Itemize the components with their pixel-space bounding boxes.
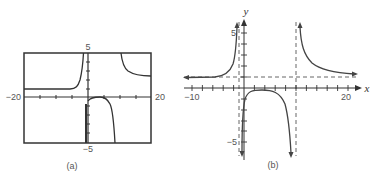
panel-a: 5 −5 −20 20 (a) bbox=[6, 42, 165, 171]
panel-b: y x −10 20 5 −5 (b) bbox=[183, 5, 370, 170]
x-tick-label-neg10: −10 bbox=[184, 92, 199, 102]
y-axis-label: y bbox=[243, 5, 249, 17]
arrow-up-right-icon bbox=[298, 22, 303, 28]
y-min-label: −5 bbox=[83, 144, 93, 154]
x-axis-label: x bbox=[364, 82, 370, 94]
x-tick-label-20: 20 bbox=[341, 92, 351, 102]
caption-a: (a) bbox=[67, 161, 78, 171]
branch-arrowheads bbox=[183, 22, 358, 158]
arrow-down-middle-right-icon bbox=[289, 152, 294, 158]
figure: 5 −5 −20 20 (a) bbox=[0, 0, 379, 182]
caption-b: (b) bbox=[268, 160, 279, 170]
x-axis-arrow-icon bbox=[355, 85, 362, 91]
x-max-label: 20 bbox=[155, 92, 165, 102]
y-tick-label-5: 5 bbox=[231, 28, 236, 38]
arrow-right-icon bbox=[352, 72, 358, 77]
middle-branch bbox=[242, 90, 291, 153]
y-axis-arrow-icon bbox=[241, 19, 247, 26]
arrow-left-icon bbox=[183, 75, 189, 80]
asymptotes bbox=[184, 22, 356, 156]
right-branch bbox=[300, 27, 354, 74]
y-tick-label-neg5: −5 bbox=[227, 137, 237, 147]
y-max-label: 5 bbox=[85, 42, 90, 52]
function-graph-b bbox=[186, 27, 354, 153]
left-branch bbox=[186, 27, 237, 78]
x-min-label: −20 bbox=[6, 92, 21, 102]
